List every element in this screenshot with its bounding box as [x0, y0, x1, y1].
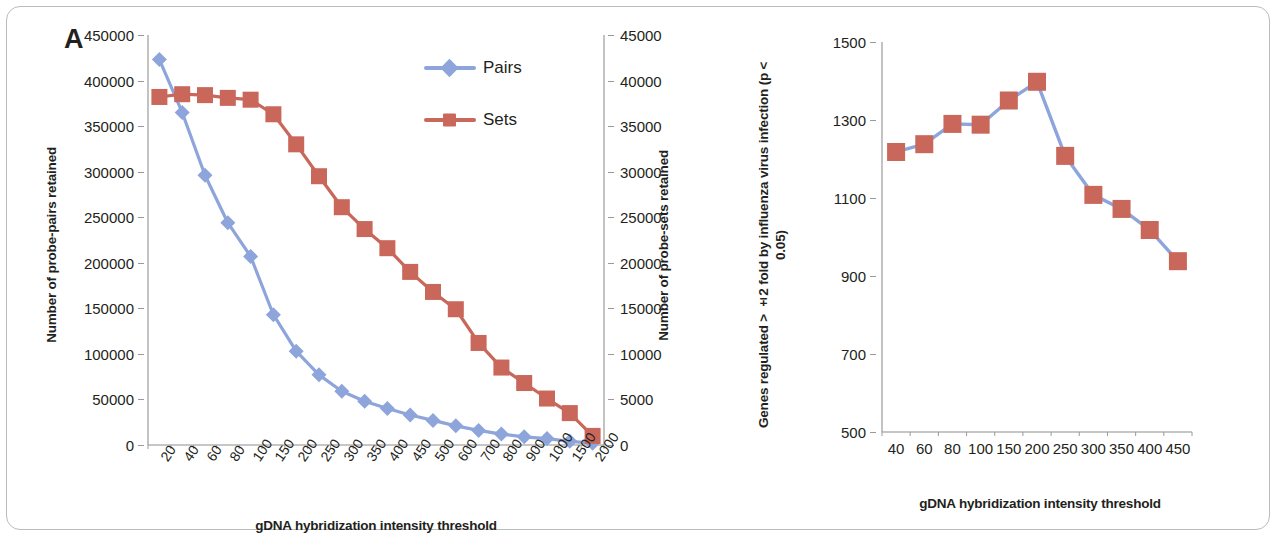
panel-a-y-tickmark-left	[138, 172, 144, 173]
panel-a-y-tick-right: 20000	[620, 254, 662, 271]
panel-b-x-tick-label: 150	[996, 440, 1021, 457]
panel-b-x-tick-labels: 406080100150200250300350400450	[882, 436, 1192, 462]
panel-a-y-axis-left-ticks: 0500001000001500002000002500003000003500…	[20, 35, 144, 445]
panel-a-x-axis-title: gDNA hybridization intensity threshold	[148, 518, 604, 533]
panel-a-y-tickmark-left	[138, 399, 144, 400]
panel-a-y-tickmark-right	[608, 172, 614, 173]
panel-a-y-tick-left: 100000	[84, 345, 134, 362]
legend-label: Pairs	[483, 58, 522, 78]
panel-a-y-tick-right: 45000	[620, 27, 662, 44]
panel-b-y-tick: 700	[841, 346, 866, 363]
panel-a-y-tickmark-right	[608, 35, 614, 36]
panel-a-y-tick-left: 0	[126, 437, 134, 454]
panel-a-y-tick-right: 5000	[620, 391, 653, 408]
panel-b-x-tick-label: 100	[968, 440, 993, 457]
panel-a-y-tick-left: 150000	[84, 300, 134, 317]
panel-a-y-tick-right: 15000	[620, 300, 662, 317]
panel-b-y-tick: 1100	[834, 190, 866, 207]
panel-b-y-axis-title: Genes regulated > ±2 fold by influenza v…	[756, 50, 790, 440]
panel-b: B Genes regulated > ±2 fold by influenza…	[700, 10, 1270, 534]
panel-a-y-tick-right: 30000	[620, 163, 662, 180]
panel-b-x-tick-label: 80	[944, 440, 961, 457]
panel-b-x-tick-label: 300	[1081, 440, 1106, 457]
panel-b-y-tickmark	[870, 432, 876, 433]
panel-a-y-tickmark-left	[138, 308, 144, 309]
panel-b-y-tickmark	[870, 276, 876, 277]
panel-b-y-tickmark	[870, 198, 876, 199]
panel-b-y-tick: 900	[841, 268, 866, 285]
panel-a-y-tick-right: 35000	[620, 118, 662, 135]
legend-marker-diamond-icon	[440, 59, 458, 77]
panel-a-y-tick-right: 10000	[620, 345, 662, 362]
panel-b-y-tick: 1300	[833, 112, 866, 129]
panel-a-y-axis-right-ticks: 0500010000150002000025000300003500040000…	[608, 35, 678, 445]
panel-a-y-tick-left: 300000	[84, 163, 134, 180]
panel-a-y-tickmark-right	[608, 81, 614, 82]
panel-a-y-tickmark-right	[608, 354, 614, 355]
panel-b-y-tick: 1500	[833, 34, 866, 51]
panel-a-y-tick-left: 200000	[84, 254, 134, 271]
panel-a-y-tick-left: 450000	[84, 27, 134, 44]
panel-a-y-tickmark-left	[138, 126, 144, 127]
panel-b-x-tick-label: 200	[1024, 440, 1049, 457]
panel-b-series-svg	[882, 42, 1192, 432]
panel-a-y-tickmark-right	[608, 126, 614, 127]
panel-b-x-tick-label: 350	[1109, 440, 1134, 457]
legend-line-pairs	[424, 66, 476, 70]
panel-b-y-tick: 500	[841, 424, 866, 441]
panel-a-y-tickmark-left	[138, 354, 144, 355]
legend-label: Sets	[483, 110, 517, 130]
panel-a-legend: PairsSets	[424, 58, 604, 144]
panel-b-plot-area	[882, 42, 1192, 432]
panel-a-y-tickmark-left	[138, 35, 144, 36]
legend-item-sets[interactable]: Sets	[424, 110, 517, 130]
panel-a: A Number of probe-pairs retained Number …	[20, 10, 680, 534]
panel-b-y-tickmark	[870, 120, 876, 121]
legend-item-pairs[interactable]: Pairs	[424, 58, 522, 78]
panel-b-x-tick-label: 250	[1053, 440, 1078, 457]
figure-root: A Number of probe-pairs retained Number …	[0, 0, 1278, 544]
panel-a-y-tickmark-right	[608, 217, 614, 218]
panel-a-y-tickmark-right	[608, 399, 614, 400]
panel-a-y-tickmark-right	[608, 263, 614, 264]
panel-b-x-tick-label: 60	[916, 440, 933, 457]
panel-b-y-axis-ticks: 500700900110013001500	[800, 42, 876, 432]
panel-a-y-tickmark-left	[138, 263, 144, 264]
panel-b-y-tickmark	[870, 42, 876, 43]
panel-b-x-tick-label: 40	[888, 440, 905, 457]
panel-a-y-tick-right: 25000	[620, 209, 662, 226]
panel-a-y-tick-right: 40000	[620, 72, 662, 89]
panel-a-y-tick-left: 400000	[84, 72, 134, 89]
panel-b-x-axis-title: gDNA hybridization intensity threshold	[830, 496, 1250, 511]
panel-a-x-tick-labels: 2040608010015020025030035040045050060070…	[148, 451, 604, 511]
legend-line-sets	[424, 118, 476, 122]
panel-a-y-tick-left: 250000	[84, 209, 134, 226]
panel-a-y-tickmark-left	[138, 81, 144, 82]
panel-a-y-tick-left: 50000	[92, 391, 134, 408]
panel-b-x-tick-label: 450	[1165, 440, 1190, 457]
panel-a-y-tickmark-left	[138, 217, 144, 218]
panel-a-y-tick-left: 350000	[84, 118, 134, 135]
panel-a-y-tickmark-left	[138, 445, 144, 446]
legend-marker-square-icon	[443, 114, 456, 127]
panel-a-y-tickmark-right	[608, 308, 614, 309]
panel-b-y-tickmark	[870, 354, 876, 355]
panel-b-x-tick-label: 400	[1137, 440, 1162, 457]
